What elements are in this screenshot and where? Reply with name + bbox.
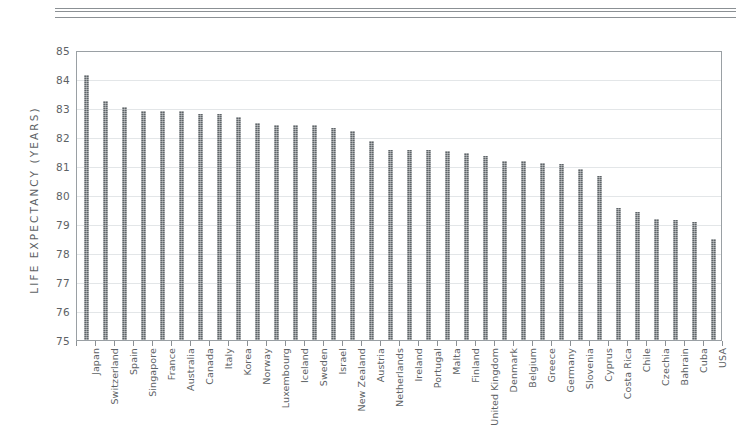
bar <box>616 208 621 340</box>
x-tick-mark <box>589 341 590 346</box>
x-tick-mark <box>703 341 704 346</box>
y-tick-label: 79 <box>56 219 70 231</box>
x-category-label: Netherlands <box>394 348 405 407</box>
x-category-label: Germany <box>565 348 576 392</box>
y-tick-label: 78 <box>56 248 70 260</box>
x-tick-mark <box>570 341 571 346</box>
bar <box>274 125 279 340</box>
x-tick-mark <box>114 341 115 346</box>
x-tick-mark <box>171 341 172 346</box>
x-tick-mark <box>152 341 153 346</box>
x-tick-mark <box>342 341 343 346</box>
x-tick-mark <box>399 341 400 346</box>
bar <box>160 111 165 340</box>
x-tick-mark <box>608 341 609 346</box>
chart-page: LIFE EXPECTANCY (YEARS) 7576777879808182… <box>0 0 738 439</box>
y-tick-label: 75 <box>56 335 70 347</box>
bar <box>483 156 488 340</box>
bar <box>673 220 678 340</box>
x-tick-mark <box>665 341 666 346</box>
x-category-label: Denmark <box>508 348 519 392</box>
x-axis-tick-marks <box>76 341 722 346</box>
x-tick-mark <box>437 341 438 346</box>
x-category-label: France <box>166 348 177 380</box>
y-tick-label: 84 <box>56 74 70 86</box>
x-category-label: Greece <box>546 348 557 382</box>
bar <box>255 123 260 340</box>
y-tick-label: 76 <box>56 306 70 318</box>
bar <box>84 75 89 340</box>
bar <box>407 150 412 340</box>
x-tick-mark <box>494 341 495 346</box>
bar <box>521 161 526 340</box>
x-tick-mark <box>228 341 229 346</box>
x-category-label: Finland <box>470 348 481 383</box>
x-tick-mark <box>285 341 286 346</box>
x-tick-mark <box>418 341 419 346</box>
x-category-label: Canada <box>204 348 215 385</box>
x-tick-mark <box>247 341 248 346</box>
x-tick-mark <box>475 341 476 346</box>
x-tick-mark <box>76 341 77 346</box>
y-tick-label: 82 <box>56 132 70 144</box>
bar <box>369 141 374 340</box>
y-tick-label: 81 <box>56 161 70 173</box>
bar <box>236 117 241 340</box>
y-tick-label: 83 <box>56 103 70 115</box>
x-category-label: Iceland <box>299 348 310 383</box>
x-category-label: New Zealand <box>356 348 367 412</box>
x-category-label: Czechia <box>660 348 671 386</box>
x-category-label: USA <box>717 348 728 368</box>
bar <box>426 150 431 340</box>
bar <box>692 222 697 340</box>
header-rule-line-1 <box>55 8 736 9</box>
x-tick-mark <box>133 341 134 346</box>
x-tick-mark <box>361 341 362 346</box>
y-tick-label: 85 <box>56 45 70 57</box>
x-category-label: Bahrain <box>679 348 690 385</box>
bar <box>217 114 222 340</box>
x-tick-mark <box>304 341 305 346</box>
x-tick-mark <box>684 341 685 346</box>
bar <box>198 114 203 340</box>
x-category-label: Korea <box>242 348 253 375</box>
bar <box>293 125 298 340</box>
x-tick-mark <box>627 341 628 346</box>
bar <box>635 212 640 340</box>
x-category-label: Norway <box>261 348 272 385</box>
bar <box>388 150 393 340</box>
x-category-label: Switzerland <box>109 348 120 405</box>
x-category-label: Austria <box>375 348 386 382</box>
x-category-label: Cuba <box>698 348 709 373</box>
x-category-label: Ireland <box>413 348 424 382</box>
x-tick-mark <box>95 341 96 346</box>
bar <box>331 128 336 340</box>
bar <box>350 131 355 340</box>
x-tick-mark <box>551 341 552 346</box>
y-axis-title: LIFE EXPECTANCY (YEARS) <box>28 70 40 330</box>
header-rule-line-3 <box>55 17 736 18</box>
x-category-label: United Kingdom <box>489 348 500 426</box>
bar <box>540 163 545 340</box>
y-tick-label: 80 <box>56 190 70 202</box>
x-category-label: Cyprus <box>603 348 614 382</box>
bar <box>445 151 450 340</box>
x-category-label: Spain <box>128 348 139 375</box>
x-category-label: Sweden <box>318 348 329 386</box>
bar <box>578 169 583 340</box>
bar <box>711 239 716 340</box>
x-category-label: Malta <box>451 348 462 375</box>
x-tick-mark <box>513 341 514 346</box>
x-category-label: Australia <box>185 348 196 391</box>
bar <box>141 111 146 340</box>
bar <box>502 161 507 340</box>
x-tick-mark <box>456 341 457 346</box>
x-category-label: Singapore <box>147 348 158 397</box>
bar <box>312 125 317 340</box>
x-category-label: Luxembourg <box>280 348 291 408</box>
x-tick-mark <box>380 341 381 346</box>
x-tick-mark <box>266 341 267 346</box>
bar <box>103 101 108 340</box>
bar <box>464 153 469 340</box>
bar <box>597 176 602 340</box>
